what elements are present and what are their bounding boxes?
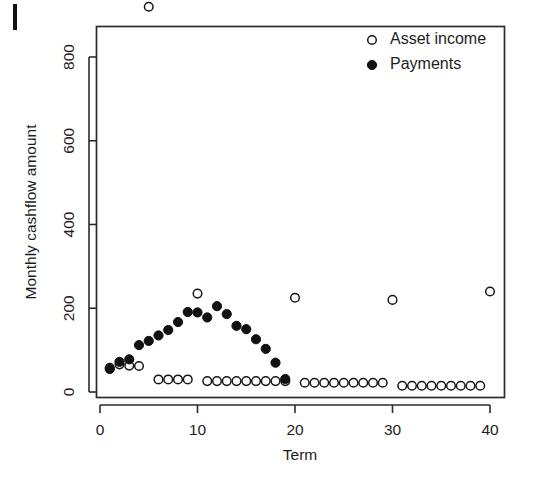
- data-point-payments: [105, 364, 114, 373]
- data-point-asset-income: [213, 377, 222, 386]
- data-point-asset-income: [291, 293, 300, 302]
- data-point-asset-income: [242, 377, 251, 386]
- data-point-asset-income: [271, 377, 280, 386]
- data-point-payments: [212, 302, 221, 311]
- data-point-asset-income: [437, 381, 446, 390]
- data-point-asset-income: [261, 377, 270, 386]
- data-point-asset-income: [300, 378, 309, 387]
- y-axis-title: Monthly cashflow amount: [22, 124, 39, 300]
- data-point-asset-income: [310, 378, 319, 387]
- data-point-asset-income: [193, 289, 202, 298]
- data-point-payments: [203, 313, 212, 322]
- data-point-asset-income: [135, 362, 144, 371]
- scatter-plot: 0200400600800 Monthly cashflow amount 01…: [0, 0, 533, 489]
- data-point-payments: [173, 317, 182, 326]
- x-axis-tick-labels: 010203040: [96, 421, 499, 438]
- x-tick-label: 40: [481, 421, 499, 438]
- data-point-asset-income: [427, 381, 436, 390]
- x-axis-ticks: [100, 405, 490, 413]
- data-point-payments: [115, 357, 124, 366]
- legend-marker-filled-circle-icon: [367, 60, 376, 69]
- data-point-payments: [271, 358, 280, 367]
- data-point-payments: [164, 325, 173, 334]
- x-tick-label: 10: [189, 421, 207, 438]
- data-point-asset-income: [144, 2, 153, 11]
- series-payments: [105, 302, 290, 384]
- data-point-payments: [281, 374, 290, 383]
- y-tick-label: 0: [60, 387, 77, 396]
- y-tick-label: 800: [60, 44, 77, 70]
- data-point-asset-income: [183, 375, 192, 384]
- data-point-payments: [261, 344, 270, 353]
- data-point-payments: [134, 341, 143, 350]
- data-point-asset-income: [222, 377, 231, 386]
- x-tick-label: 30: [384, 421, 402, 438]
- y-tick-label: 200: [60, 295, 77, 321]
- y-axis-tick-labels: 0200400600800: [60, 44, 77, 397]
- y-tick-label: 600: [60, 127, 77, 153]
- data-point-payments: [232, 321, 241, 330]
- data-point-asset-income: [369, 378, 378, 387]
- data-point-asset-income: [378, 378, 387, 387]
- data-point-asset-income: [232, 377, 241, 386]
- legend-label: Payments: [390, 55, 461, 72]
- legend-label: Asset income: [390, 30, 486, 47]
- data-point-asset-income: [174, 375, 183, 384]
- data-point-asset-income: [476, 381, 485, 390]
- data-point-asset-income: [252, 377, 261, 386]
- data-point-asset-income: [359, 378, 368, 387]
- data-point-payments: [144, 336, 153, 345]
- data-point-asset-income: [164, 375, 173, 384]
- data-point-asset-income: [486, 287, 495, 296]
- data-point-asset-income: [456, 381, 465, 390]
- plot-frame: [97, 27, 505, 398]
- chart-legend: Asset incomePayments: [367, 30, 486, 72]
- data-point-asset-income: [417, 381, 426, 390]
- legend-marker-open-circle-icon: [368, 36, 377, 45]
- data-point-asset-income: [339, 378, 348, 387]
- data-point-payments: [154, 331, 163, 340]
- data-point-payments: [183, 307, 192, 316]
- data-point-payments: [222, 310, 231, 319]
- data-point-asset-income: [408, 381, 417, 390]
- data-point-asset-income: [349, 378, 358, 387]
- data-point-asset-income: [320, 378, 329, 387]
- data-point-payments: [125, 355, 134, 364]
- data-point-payments: [251, 335, 260, 344]
- y-axis: 0200400600800 Monthly cashflow amount: [22, 44, 96, 397]
- data-point-asset-income: [466, 381, 475, 390]
- chart-figure: 0200400600800 Monthly cashflow amount 01…: [0, 0, 533, 489]
- x-axis: 010203040 Term: [96, 405, 499, 463]
- data-point-asset-income: [330, 378, 339, 387]
- x-axis-title: Term: [283, 446, 317, 463]
- data-point-asset-income: [154, 375, 163, 384]
- y-axis-ticks: [89, 57, 96, 392]
- data-point-asset-income: [203, 377, 212, 386]
- data-point-payments: [242, 325, 251, 334]
- data-point-asset-income: [398, 381, 407, 390]
- x-tick-label: 0: [96, 421, 105, 438]
- x-tick-label: 20: [286, 421, 304, 438]
- data-point-payments: [193, 308, 202, 317]
- y-tick-label: 400: [60, 211, 77, 237]
- data-point-asset-income: [447, 381, 456, 390]
- data-point-asset-income: [388, 296, 397, 305]
